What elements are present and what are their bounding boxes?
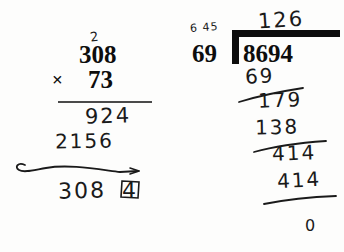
division-quotient: 126 xyxy=(257,8,304,32)
division-divisor: 69 xyxy=(192,41,217,66)
division-final-rule xyxy=(262,192,338,212)
division-final-remainder: 0 xyxy=(305,218,317,234)
division-step-subtract-3: 414 xyxy=(277,169,322,191)
multiplication-partial-product-1: 924 xyxy=(85,105,132,128)
division-step-remainder-1: 179 xyxy=(258,89,303,111)
division-margin-note: 6 45 xyxy=(190,21,219,34)
multiplicand: 308 xyxy=(79,42,117,67)
multiplication-rule xyxy=(58,101,152,103)
division-step-subtract-2: 138 xyxy=(255,117,300,138)
worksheet-canvas: 2 308 × 73 924 2156 308 4 6 45 126 69 86… xyxy=(0,0,344,252)
multiplication-product: 308 xyxy=(58,179,107,202)
division-step-remainder-2: 414 xyxy=(272,142,317,164)
multiplication-digit-correction-box xyxy=(118,177,144,203)
multiplication-partial-product-2: 2156 xyxy=(55,130,114,151)
multiplier: 73 xyxy=(88,67,113,92)
multiplication-operator-icon: × xyxy=(52,70,63,89)
division-step-subtract-1: 69 xyxy=(244,65,274,87)
division-dividend: 8694 xyxy=(243,41,293,66)
